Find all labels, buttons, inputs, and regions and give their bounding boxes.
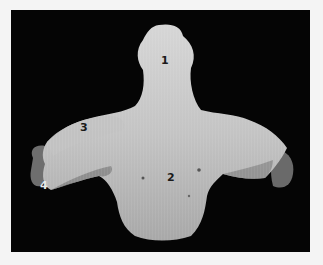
label-4: 4 [40,180,48,191]
specimen-photo [11,10,310,252]
label-1: 1 [161,55,169,66]
bone-specimen-illustration [11,10,310,252]
label-2: 2 [167,172,175,183]
label-3: 3 [80,122,88,133]
